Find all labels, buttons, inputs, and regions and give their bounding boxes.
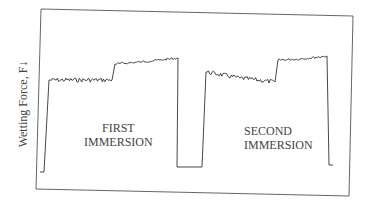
annotation-second-immersion: SECOND IMMERSION	[244, 124, 313, 152]
y-axis-label-wrap: Wetting Force, F↓	[0, 0, 30, 209]
annotation-first-line2: IMMERSION	[84, 135, 153, 149]
chart-plot	[0, 0, 368, 209]
plot-frame	[36, 9, 353, 196]
annotation-first-immersion: FIRST IMMERSION	[84, 121, 153, 149]
annotation-second-line1: SECOND	[244, 124, 313, 138]
y-axis-label: Wetting Force, F↓	[16, 61, 31, 148]
wetting-force-trace	[40, 56, 333, 172]
annotation-second-line2: IMMERSION	[244, 138, 313, 152]
annotation-first-line1: FIRST	[84, 121, 153, 135]
